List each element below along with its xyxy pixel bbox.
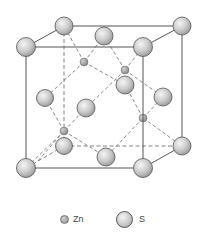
s-atom-back-top-left <box>55 17 73 35</box>
legend-s: S <box>116 211 145 227</box>
zn-atoms <box>60 58 147 135</box>
s-atom-top-face <box>95 27 113 45</box>
legend-s-label: S <box>139 214 145 224</box>
s-atom-left-face <box>37 90 54 107</box>
s-atom-front-bottom-left <box>17 159 36 178</box>
s-atom-right-face <box>154 88 172 106</box>
s-atom-back-bottom-left <box>56 138 73 155</box>
s-atom-front-top-left <box>17 38 36 57</box>
legend-zn: Zn <box>60 211 84 227</box>
s-swatch-icon <box>116 211 133 228</box>
legend-zn-label: Zn <box>73 214 84 224</box>
zn-atom-1 <box>80 58 88 66</box>
zn-atom-2 <box>121 66 129 74</box>
zn-swatch-icon <box>60 215 69 224</box>
s-atom-front-face <box>116 76 134 94</box>
s-atom-front-bottom-right <box>134 159 153 178</box>
s-atom-back-face <box>77 99 95 117</box>
zinc-blende-unit-cell-diagram <box>0 0 204 235</box>
s-atom-front-top-right <box>134 38 153 57</box>
zn-atom-3 <box>60 127 68 135</box>
s-atom-bottom-face <box>97 148 115 166</box>
s-atom-back-bottom-right <box>173 137 191 155</box>
s-atom-back-top-right <box>173 17 191 35</box>
